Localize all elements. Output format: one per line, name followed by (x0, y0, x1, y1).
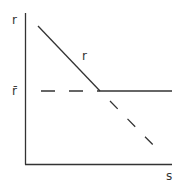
curve-r-solid (38, 26, 100, 91)
y-axis-label: r (12, 13, 17, 27)
curve-r-dashed (110, 101, 161, 153)
level-label: r̄ (12, 84, 17, 98)
x-axis-label: s (166, 169, 172, 183)
diagram: r r r̄ s (0, 0, 184, 186)
curve-label: r (82, 49, 87, 63)
